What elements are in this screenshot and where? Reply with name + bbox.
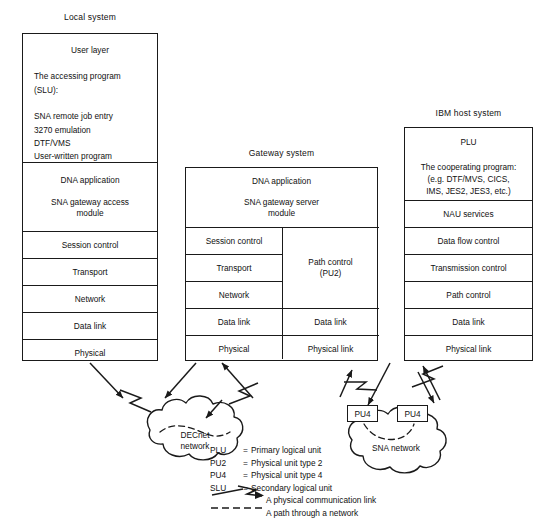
sna-cloud-label-line-1: SNA network — [356, 443, 436, 454]
gateway-system-title: Gateway system — [185, 148, 378, 158]
ibm-layer-data-link: Data link — [405, 308, 532, 335]
local-system-title: Local system — [22, 12, 158, 22]
ibm-layer-data-flow-control: Data flow control — [405, 227, 532, 254]
pu4-node-right: PU4 — [397, 405, 428, 422]
local-user-layer-line-5: 3270 emulation — [34, 124, 146, 137]
decnet-cloud-label: DECnet network — [156, 430, 234, 451]
legend-row: PU4 = Physical unit type 4 — [210, 469, 332, 482]
local-layer-physical: Physical — [23, 339, 157, 366]
local-sna-access-module-line-1: SNA gateway access — [48, 197, 132, 208]
gateway-layer-label: Session control — [203, 236, 266, 247]
local-user-layer-line-1: The accessing program — [34, 70, 146, 83]
gateway-layer-sna-physical-link: Physical link — [282, 335, 379, 362]
pu4-right-label: PU4 — [404, 409, 420, 419]
legend-abbr: PU4 — [210, 469, 240, 482]
local-sna-access-module-line-2: module — [73, 208, 106, 219]
gateway-layer-label: Data link — [215, 317, 253, 328]
pu4-node-left: PU4 — [347, 405, 378, 422]
gateway-layer-data-link: Data link — [186, 308, 282, 335]
gateway-system-box: DNA application SNA gateway server modul… — [185, 167, 378, 361]
gateway-layer-label: Physical link — [305, 344, 357, 355]
legend-text: Physical unit type 2 — [251, 457, 332, 470]
legend-abbr: PU2 — [210, 457, 240, 470]
decnet-cloud-label-line-1: DECnet — [156, 430, 234, 441]
link-local-to-decnet — [90, 363, 196, 412]
legend-abbreviation-table: PLU = Primary logical unit PU2 = Physica… — [210, 444, 332, 494]
local-system-box: User layer The accessing program (SLU): … — [22, 33, 158, 361]
lightning-zigzag — [120, 390, 151, 412]
local-layer-session-control: Session control — [23, 231, 157, 258]
diagram-canvas: DECnet cloud --> DECnet cloud --> PU4 le… — [0, 0, 557, 528]
gateway-dna-application-band: DNA application SNA gateway server modul… — [186, 168, 377, 227]
ibm-cooperating-program-line-1: The cooperating program: — [411, 161, 526, 173]
local-dna-application-line-1: DNA application — [57, 175, 122, 186]
local-layer-label: Transport — [69, 267, 110, 278]
pu4-left-label: PU4 — [354, 409, 370, 419]
local-layer-label: Network — [72, 294, 108, 305]
gateway-dna-application-line-1: DNA application — [249, 176, 314, 187]
gateway-layer-label: Network — [216, 290, 252, 301]
gateway-layer-transport: Transport — [186, 254, 282, 281]
ibm-layer-label: Transmission control — [427, 263, 509, 274]
local-user-layer-line-6: DTF/VMS — [34, 137, 146, 150]
ibm-layer-transmission-control: Transmission control — [405, 254, 532, 281]
local-layer-label: Session control — [59, 240, 122, 251]
link-gateway-to-decnet — [206, 363, 258, 418]
legend-physical-link-text: A physical communication link — [266, 494, 376, 507]
local-user-layer-heading: User layer — [34, 44, 146, 57]
ibm-layer-label: Data flow control — [435, 236, 503, 247]
gateway-path-control-line-2: (PU2) — [317, 268, 345, 279]
legend-equals: = — [240, 457, 251, 470]
ibm-host-system-box: PLU The cooperating program: (e.g. DTF/M… — [404, 127, 533, 361]
lightning-zigzag — [229, 383, 258, 404]
ibm-layer-label: Physical link — [443, 344, 495, 355]
ibm-cooperating-program-line-3: IMS, JES2, JES3, etc.) — [411, 185, 526, 197]
gateway-sna-server-module-line-1: SNA gateway server — [241, 197, 322, 208]
gateway-layer-session-control: Session control — [186, 227, 282, 254]
link-ibm-to-pu4-right — [412, 366, 443, 403]
gateway-layer-label: Data link — [311, 317, 349, 328]
sna-cloud-label: SNA network — [356, 443, 436, 454]
legend-abbr: SLU — [210, 482, 240, 495]
ibm-plu-heading: PLU — [411, 136, 526, 149]
legend-text: Secondary logical unit — [251, 482, 332, 495]
legend-text: Primary logical unit — [251, 444, 332, 457]
legend-symbol-row-physical-link: A physical communication link — [210, 494, 440, 507]
ibm-layer-path-control: Path control — [405, 281, 532, 308]
local-layer-network: Network — [23, 285, 157, 312]
gateway-layer-network: Network — [186, 281, 282, 308]
legend-equals: = — [240, 444, 251, 457]
decnet-cloud-label-line-2: network — [156, 441, 234, 452]
local-layer-label: Data link — [71, 321, 109, 332]
sna-network-path-dashed — [364, 424, 414, 439]
legend-text: Physical unit type 4 — [251, 469, 332, 482]
gateway-layer-label: Transport — [213, 263, 254, 274]
ibm-host-system-title: IBM host system — [404, 108, 533, 118]
local-user-layer-line-2: (SLU): — [34, 84, 146, 97]
legend: PLU = Primary logical unit PU2 = Physica… — [210, 444, 440, 520]
legend-network-path-text: A path through a network — [266, 507, 358, 520]
legend-equals: = — [240, 469, 251, 482]
gateway-layer-label: Physical — [216, 344, 253, 355]
local-layer-data-link: Data link — [23, 312, 157, 339]
gateway-layer-path-control-pu2: Path control (PU2) — [282, 227, 379, 308]
ibm-layer-label: Path control — [443, 290, 493, 301]
local-user-layer-line-4: SNA remote job entry — [34, 110, 146, 123]
lightning-zigzag — [344, 382, 377, 390]
local-layer-transport: Transport — [23, 258, 157, 285]
legend-row: SLU = Secondary logical unit — [210, 482, 332, 495]
ibm-layer-physical-link: Physical link — [405, 335, 532, 362]
local-dna-application-band: DNA application SNA gateway access modul… — [23, 162, 157, 231]
gateway-path-control-line-1: Path control — [305, 257, 355, 268]
local-user-layer-block: User layer The accessing program (SLU): … — [23, 34, 157, 162]
ibm-cooperating-program-line-2: (e.g. DTF/MVS, CICS, — [411, 173, 526, 185]
ibm-layer-label: Data link — [449, 317, 487, 328]
gateway-sna-server-module-line-2: module — [265, 208, 298, 219]
ibm-layer-label: NAU services — [440, 209, 496, 220]
gateway-layer-sna-data-link: Data link — [282, 308, 379, 335]
legend-equals: = — [240, 482, 251, 495]
gateway-layer-physical: Physical — [186, 335, 282, 362]
legend-symbol-row-network-path: A path through a network — [210, 507, 440, 520]
legend-row: PU2 = Physical unit type 2 — [210, 457, 332, 470]
lightning-zigzag — [412, 366, 443, 387]
